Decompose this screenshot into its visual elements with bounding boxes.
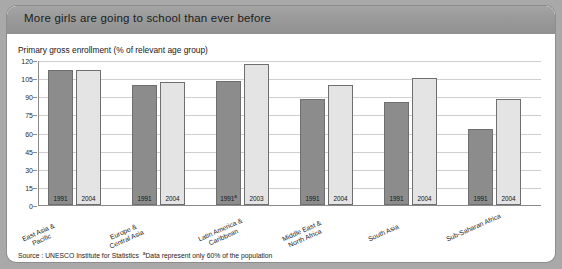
x-axis-category-label: South Asia [367, 223, 400, 244]
gridline [39, 61, 541, 62]
bar-year-label: 1991 [133, 195, 156, 202]
bar[interactable]: 1991 [132, 85, 157, 205]
y-axis-tick-mark [33, 188, 37, 189]
bar[interactable]: 2004 [160, 82, 185, 205]
gridline [39, 188, 541, 189]
y-axis-tick-label: 75 [25, 112, 33, 119]
gridline [39, 97, 541, 98]
bar[interactable]: 2004 [76, 70, 101, 205]
page-title: More girls are going to school than ever… [24, 12, 271, 24]
bar-group: 19912004 [300, 61, 358, 205]
bar-year-label: 2004 [329, 195, 352, 202]
y-axis-tick-mark [33, 79, 37, 80]
bar-year-label: 1991 [469, 195, 492, 202]
x-axis-category-labels: East Asia &PacificEurope &Central AsiaLa… [7, 206, 555, 251]
bar[interactable]: 2004 [412, 78, 437, 205]
y-axis-tick-label: 30 [25, 166, 33, 173]
x-axis-category-label: Sub-Saharan Africa [445, 212, 502, 244]
bar-year-label: 1991 [49, 195, 72, 202]
x-axis-category-label: East Asia &Pacific [21, 222, 60, 252]
chart-footnote: Source : UNESCO Institute for Statistics… [18, 250, 272, 259]
bar[interactable]: 2003 [244, 64, 269, 205]
gridline [39, 79, 541, 80]
footnote-note: Data represent only 60% of the populatio… [145, 252, 272, 259]
bar-group: 1991a2003 [216, 61, 274, 205]
x-axis-category-label: Latin America &Caribbean [197, 217, 247, 252]
bar-group: 19912004 [132, 61, 190, 205]
bar[interactable]: 1991 [48, 70, 73, 205]
y-axis-tick-mark [33, 170, 37, 171]
bar-group: 19912004 [384, 61, 442, 205]
chart-plot: 0153045607590105120 19912004199120041991… [7, 61, 555, 206]
y-axis-tick-label: 45 [25, 148, 33, 155]
bar-year-label: 2003 [245, 195, 268, 202]
bar-year-label: 2004 [497, 195, 520, 202]
bar-year-label: 1991 [385, 195, 408, 202]
y-axis-tick-mark [33, 152, 37, 153]
bar[interactable]: 1991a [216, 81, 241, 205]
y-axis-tick-mark [33, 134, 37, 135]
gridline [39, 134, 541, 135]
bar-group: 19912004 [48, 61, 106, 205]
chart-subtitle: Primary gross enrollment (% of relevant … [18, 45, 208, 55]
y-axis-tick-label: 15 [25, 184, 33, 191]
y-axis: 0153045607590105120 [7, 61, 37, 206]
y-axis-tick-mark [33, 115, 37, 116]
bar[interactable]: 2004 [328, 85, 353, 205]
y-axis-tick-mark [33, 61, 37, 62]
bar-group: 19912004 [468, 61, 526, 205]
y-axis-tick-label: 105 [21, 76, 33, 83]
bar-year-label: 2004 [77, 195, 100, 202]
bar[interactable]: 1991 [468, 129, 493, 205]
bar-year-label: 1991 [301, 195, 324, 202]
bar[interactable]: 1991 [300, 99, 325, 205]
y-axis-tick-label: 90 [25, 94, 33, 101]
y-axis-tick-label: 120 [21, 58, 33, 65]
x-axis-category-label: Europe &Central Asia [105, 221, 145, 251]
bar-year-label: 2004 [161, 195, 184, 202]
gridline [39, 170, 541, 171]
bar-year-label: 2004 [413, 195, 436, 202]
gridline [39, 115, 541, 116]
gridline [39, 152, 541, 153]
footnote-source: Source : UNESCO Institute for Statistics [18, 252, 139, 259]
bar-year-label: 1991a [217, 194, 240, 202]
chart-card: More girls are going to school than ever… [7, 6, 555, 262]
plot-area: 19912004199120041991a2003199120041991200… [38, 61, 541, 206]
bar[interactable]: 1991 [384, 102, 409, 205]
x-axis-category-label: Middle East &North Africa [281, 219, 326, 252]
card-header-band: More girls are going to school than ever… [7, 6, 555, 34]
y-axis-tick-mark [33, 97, 37, 98]
y-axis-tick-label: 60 [25, 130, 33, 137]
bar[interactable]: 2004 [496, 99, 521, 205]
bar-label-footnote-marker: a [234, 194, 236, 199]
